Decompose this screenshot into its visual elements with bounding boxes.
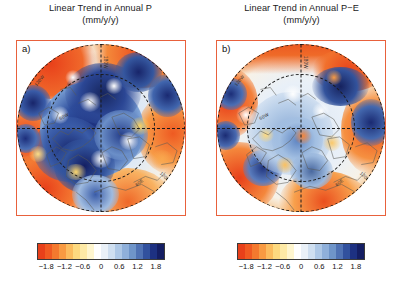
colorbar-segment	[150, 244, 157, 259]
colorbar-a: −1.8−1.2−0.600.61.21.8	[37, 243, 165, 276]
colorbar-tick-label: −1.8	[239, 262, 254, 271]
panel-b-title: Linear Trend in Annual P−E (mm/y/y)	[201, 3, 402, 26]
colorbar-segment	[245, 244, 252, 259]
colorbar-segment	[129, 244, 136, 259]
colorbar-segment	[350, 244, 357, 259]
colorbar-segment	[136, 244, 143, 259]
colorbar-segment	[73, 244, 80, 259]
colorbar-segment	[336, 244, 343, 259]
panel-b-title-line1: Linear Trend in Annual P−E	[244, 3, 359, 13]
colorbar-segment	[59, 244, 66, 259]
figure-root: Linear Trend in Annual P (mm/y/y) a)	[0, 0, 402, 288]
colorbar-segment	[52, 244, 59, 259]
colorbar-segment	[252, 244, 259, 259]
colorbar-tick-label: −1.2	[57, 262, 72, 271]
lon-label-180w: 180W	[103, 56, 108, 69]
colorbar-segment	[308, 244, 315, 259]
colorbar-segment	[301, 244, 308, 259]
map-disc-a: 120W 60W 180W 60E 120E	[17, 44, 185, 212]
colorbar-tick-label: 1.2	[132, 262, 143, 271]
colorbar-segment	[80, 244, 87, 259]
colorbar-segment	[45, 244, 52, 259]
colorbar-segment	[157, 244, 164, 259]
colorbar-segment	[108, 244, 115, 259]
colorbar-segment	[66, 244, 73, 259]
colorbar-segment	[94, 244, 101, 259]
colorbar-segment	[122, 244, 129, 259]
colorbar-segment	[329, 244, 336, 259]
data-field-b	[217, 44, 385, 212]
colorbar-tick-label: 0.6	[314, 262, 325, 271]
colorbar-tick-label: −0.6	[275, 262, 290, 271]
colorbar-segment	[294, 244, 301, 259]
panel-a-title: Linear Trend in Annual P (mm/y/y)	[0, 3, 201, 26]
colorbar-tick-label: 0	[299, 262, 303, 271]
colorbar-segment	[287, 244, 294, 259]
colorbar-segment	[357, 244, 364, 259]
colorbar-segment	[38, 244, 45, 259]
colorbar-segment	[280, 244, 287, 259]
colorbar-segment	[273, 244, 280, 259]
colorbar-tick-label: 0	[99, 262, 103, 271]
colorbar-segment	[115, 244, 122, 259]
colorbar-b-gradient	[237, 243, 365, 260]
panel-b-title-line2: (mm/y/y)	[201, 15, 402, 27]
colorbar-tick-label: 1.2	[332, 262, 343, 271]
panel-b: Linear Trend in Annual P−E (mm/y/y) b)	[201, 0, 402, 288]
colorbar-segment	[101, 244, 108, 259]
colorbar-segment	[322, 244, 329, 259]
colorbar-tick-label: −1.8	[39, 262, 54, 271]
colorbar-segment	[259, 244, 266, 259]
colorbar-b: −1.8−1.2−0.600.61.21.8	[237, 243, 365, 276]
data-field-a	[17, 44, 185, 212]
colorbar-segment	[315, 244, 322, 259]
panel-a-label: a)	[22, 43, 30, 54]
colorbar-segment	[238, 244, 245, 259]
colorbar-tick-label: 1.8	[151, 262, 162, 271]
map-frame-a: a)	[16, 40, 186, 216]
colorbar-tick-label: −0.6	[75, 262, 90, 271]
panel-b-label: b)	[222, 43, 230, 54]
colorbar-a-ticks: −1.8−1.2−0.600.61.21.8	[37, 262, 165, 276]
colorbar-segment	[143, 244, 150, 259]
colorbar-tick-label: 1.8	[351, 262, 362, 271]
colorbar-segment	[266, 244, 273, 259]
colorbar-b-ticks: −1.8−1.2−0.600.61.21.8	[237, 262, 365, 276]
colorbar-a-gradient	[37, 243, 165, 260]
panel-a-title-line2: (mm/y/y)	[0, 15, 201, 27]
colorbar-segment	[87, 244, 94, 259]
panel-a-title-line1: Linear Trend in Annual P	[49, 3, 152, 13]
colorbar-tick-label: −1.2	[257, 262, 272, 271]
map-disc-b: 120W 60W 180W 60E 120E	[217, 44, 385, 212]
panel-a: Linear Trend in Annual P (mm/y/y) a)	[0, 0, 201, 288]
map-frame-b: b)	[216, 40, 386, 216]
lon-label-180w: 180W	[303, 56, 308, 69]
colorbar-segment	[343, 244, 350, 259]
colorbar-tick-label: 0.6	[114, 262, 125, 271]
